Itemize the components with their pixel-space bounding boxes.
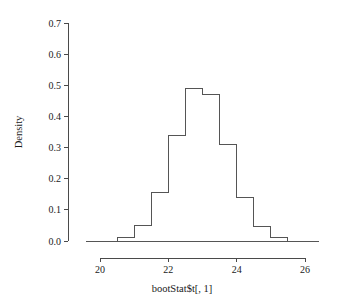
y-tick-label: 0.3	[49, 142, 62, 153]
y-tick-label: 0.1	[49, 204, 62, 215]
y-axis	[64, 23, 68, 241]
x-tick-label: 26	[300, 264, 310, 275]
histogram-outline	[100, 88, 288, 241]
chart-canvas: 0.00.10.20.30.40.50.60.7 20222426 bootSt…	[0, 0, 364, 306]
x-tick-label: 24	[232, 264, 242, 275]
y-tick-label: 0.2	[49, 173, 62, 184]
histogram-chart: 0.00.10.20.30.40.50.60.7 20222426 bootSt…	[0, 0, 364, 306]
y-tick-label: 0.0	[49, 236, 62, 247]
y-axis-title: Density	[13, 115, 24, 148]
x-axis	[100, 258, 305, 262]
y-tick-label: 0.6	[49, 49, 62, 60]
x-tick-label: 20	[95, 264, 105, 275]
y-tick-label: 0.5	[49, 80, 62, 91]
x-axis-tick-labels: 20222426	[95, 264, 310, 275]
y-tick-label: 0.7	[49, 18, 62, 29]
y-axis-tick-labels: 0.00.10.20.30.40.50.60.7	[49, 18, 62, 247]
y-tick-label: 0.4	[49, 111, 62, 122]
x-axis-title: bootStat$t[, 1]	[152, 283, 213, 294]
x-tick-label: 22	[163, 264, 173, 275]
histogram-bars	[100, 88, 288, 241]
